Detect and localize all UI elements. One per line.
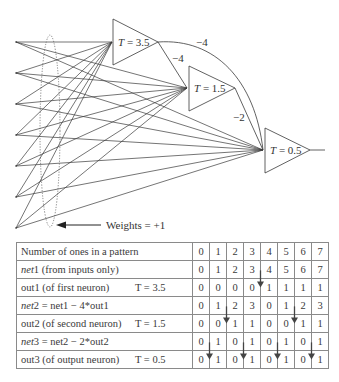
table-cell: 0 [193,333,210,351]
table-row: net2 = net1 − 4*out101230123 [17,297,329,315]
weight-n1-n2-label: −4 [172,52,184,64]
row-label: out1 (of first neuron)T = 3.5 [17,279,193,297]
table-cell: 7 [312,243,329,261]
table-cell: 4 [261,261,278,279]
input-connections [16,42,263,228]
table-cell: 2 [295,297,312,315]
table-cell: 5 [278,243,295,261]
row-label: net2 = net1 − 4*out1 [17,297,193,315]
table-cell: 1 [278,333,295,351]
table-cell: 5 [278,261,295,279]
neuron-3-label: T = 0.5 [270,144,302,156]
table-cell: 1 [312,333,329,351]
table-cell: 0 [278,315,295,333]
neuron-2-label: T = 1.5 [194,82,226,94]
table-cell: 1 [210,351,227,369]
table-cell: 3 [244,297,261,315]
table-cell: 0 [261,315,278,333]
table-cell: 7 [312,261,329,279]
table-cell: 1 [312,315,329,333]
table-cell: 0 [244,279,261,297]
row-label-text: out3 (of output neuron) [21,354,119,365]
table-cell: 1 [278,351,295,369]
table-row: net1 (from inputs only)01234567 [17,261,329,279]
row-label-text: out1 (of first neuron) [21,282,109,293]
row-label: Number of ones in a pattern [17,243,193,261]
row-label: out2 (of second neuron)T = 1.5 [17,315,193,333]
row-label: net1 (from inputs only) [17,261,193,279]
truth-table: Number of ones in a pattern01234567net1 … [16,242,329,369]
table-cell: 1 [244,351,261,369]
table-cell: 6 [295,261,312,279]
input-nodes [15,41,17,229]
table-cell: 0 [227,351,244,369]
table-cell: 1 [295,315,312,333]
neural-network-diagram: T = 3.5 T = 1.5 T = 0.5 −4 −4 −2 Weights… [0,0,339,240]
table-cell: 0 [210,279,227,297]
table-cell: 0 [193,279,210,297]
neuron-1-label: T = 3.5 [118,36,150,48]
table-cell: 0 [193,261,210,279]
table-cell: 0 [261,333,278,351]
table-row: out1 (of first neuron)T = 3.500001111 [17,279,329,297]
table-cell: 0 [295,351,312,369]
table-cell: 2 [227,243,244,261]
table-cell: 0 [210,315,227,333]
table-cell: 1 [210,261,227,279]
table-row: net3 = net2 − 2*out201010101 [17,333,329,351]
table-cell: 1 [210,333,227,351]
table-cell: 1 [278,297,295,315]
row-label-text: 3 = net2 − 2*out2 [34,336,109,347]
table-cell: 0 [193,243,210,261]
table-cell: 0 [295,333,312,351]
table-cell: 1 [227,315,244,333]
row-threshold: T = 3.5 [135,279,166,296]
table-cell: 3 [244,261,261,279]
row-label-var: net [21,336,34,347]
table-cell: 1 [312,279,329,297]
row-threshold: T = 0.5 [135,351,166,368]
row-label-text: out2 (of second neuron) [21,318,122,329]
table-cell: 3 [312,297,329,315]
weight-n2-n3-label: −2 [233,111,245,123]
table-cell: 1 [244,315,261,333]
row-label: net3 = net2 − 2*out2 [17,333,193,351]
table-cell: 2 [227,261,244,279]
table-cell: 0 [227,333,244,351]
row-label-var: net [21,300,34,311]
weights-arrow [56,222,101,229]
row-label-text: 2 = net1 − 4*out1 [34,300,109,311]
row-label-var: net [21,264,34,275]
table-cell: 0 [261,297,278,315]
weight-n1-n3-label: −4 [196,36,208,48]
table-row: Number of ones in a pattern01234567 [17,243,329,261]
table-cell: 0 [193,351,210,369]
table-cell: 4 [261,243,278,261]
table-cell: 1 [210,243,227,261]
row-label: out3 (of output neuron)T = 0.5 [17,351,193,369]
table-row: out2 (of second neuron)T = 1.500110011 [17,315,329,333]
table-cell: 1 [261,279,278,297]
row-threshold: T = 1.5 [135,315,166,332]
table-cell: 1 [295,279,312,297]
table-cell: 1 [210,297,227,315]
weights-annotation: Weights = +1 [106,219,165,231]
table-cell: 2 [227,297,244,315]
table-cell: 0 [261,351,278,369]
table-cell: 1 [278,279,295,297]
table-cell: 0 [193,315,210,333]
row-label-text: 1 (from inputs only) [34,264,119,275]
table-cell: 0 [227,279,244,297]
table-row: out3 (of output neuron)T = 0.501010101 [17,351,329,369]
row-label-text: Number of ones in a pattern [21,246,139,257]
table-cell: 1 [244,333,261,351]
table-cell: 0 [193,297,210,315]
table-cell: 1 [312,351,329,369]
table-cell: 6 [295,243,312,261]
table-cell: 3 [244,243,261,261]
